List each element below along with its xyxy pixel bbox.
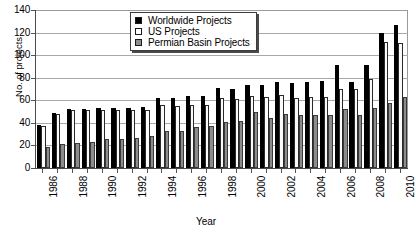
x-tick-label-1988: 1988 xyxy=(78,176,89,216)
y-tick-label-120: 120 xyxy=(0,28,30,38)
bar xyxy=(165,131,169,168)
bar-group xyxy=(111,10,124,168)
bar xyxy=(156,98,160,168)
legend-swatch-us-projects xyxy=(135,28,142,35)
bar-group xyxy=(394,10,407,168)
bar xyxy=(388,103,392,168)
bar-group xyxy=(52,10,65,168)
bar xyxy=(190,105,194,168)
bar-group xyxy=(290,10,303,168)
bar xyxy=(175,106,179,168)
x-tick-mark-1997 xyxy=(206,169,207,173)
bar xyxy=(111,108,115,168)
bar xyxy=(309,97,313,168)
x-tick-label-2000: 2000 xyxy=(256,176,267,216)
x-tick-mark-1987 xyxy=(57,169,58,173)
bar xyxy=(299,115,303,168)
x-tick-mark-1990 xyxy=(102,169,103,173)
y-tick-mark-140 xyxy=(31,10,35,11)
bar xyxy=(56,114,60,168)
bar xyxy=(354,89,358,168)
bar xyxy=(145,110,149,168)
x-tick-mark-2005 xyxy=(325,169,326,173)
x-tick-mark-1996 xyxy=(191,169,192,173)
bar xyxy=(116,110,120,168)
legend-label-permian-basin-projects: Permian Basin Projects xyxy=(148,37,250,48)
bar xyxy=(328,115,332,168)
bar xyxy=(294,98,298,168)
bar xyxy=(349,82,353,168)
bar xyxy=(394,25,398,168)
bar xyxy=(46,147,50,168)
x-tick-mark-2001 xyxy=(266,169,267,173)
bar xyxy=(384,42,388,168)
bar xyxy=(82,109,86,168)
bar xyxy=(320,81,324,168)
bar xyxy=(324,97,328,168)
bar xyxy=(71,110,75,168)
bar xyxy=(52,113,56,168)
x-tick-label-1998: 1998 xyxy=(227,176,238,216)
legend-swatch-worldwide-projects xyxy=(135,17,142,24)
bar xyxy=(343,109,347,168)
bar xyxy=(364,65,368,168)
bar xyxy=(230,89,234,168)
bar xyxy=(60,144,64,168)
bar xyxy=(41,126,45,168)
bar xyxy=(86,110,90,168)
x-tick-label-1986: 1986 xyxy=(48,176,59,216)
bar xyxy=(220,98,224,168)
bar xyxy=(105,139,109,168)
bar xyxy=(96,108,100,168)
bar-group xyxy=(364,10,377,168)
bar-group xyxy=(96,10,109,168)
bar xyxy=(269,118,273,168)
bar xyxy=(67,109,71,168)
y-tick-mark-0 xyxy=(31,168,35,169)
x-tick-label-1996: 1996 xyxy=(197,176,208,216)
y-tick-mark-120 xyxy=(31,33,35,34)
x-tick-mark-1988 xyxy=(72,169,73,173)
x-tick-mark-1986 xyxy=(42,169,43,173)
bar xyxy=(135,138,139,168)
x-tick-mark-2009 xyxy=(385,169,386,173)
bar xyxy=(264,97,268,168)
bar xyxy=(279,95,283,168)
x-tick-mark-1992 xyxy=(132,169,133,173)
y-tick-mark-20 xyxy=(31,145,35,146)
bar xyxy=(398,43,402,168)
x-axis-title: Year xyxy=(0,216,412,227)
x-tick-mark-2000 xyxy=(251,169,252,173)
bar xyxy=(194,127,198,168)
bar xyxy=(216,88,220,168)
bar xyxy=(171,98,175,168)
bar-group xyxy=(260,10,273,168)
bar xyxy=(369,79,373,168)
x-tick-label-2004: 2004 xyxy=(316,176,327,216)
bar xyxy=(275,82,279,168)
chart-legend: Worldwide Projects US Projects Permian B… xyxy=(130,12,257,51)
x-tick-mark-1994 xyxy=(161,169,162,173)
x-tick-label-2002: 2002 xyxy=(286,176,297,216)
bar xyxy=(141,107,145,168)
x-tick-mark-1991 xyxy=(117,169,118,173)
legend-label-worldwide-projects: Worldwide Projects xyxy=(148,15,232,26)
x-tick-mark-1999 xyxy=(236,169,237,173)
bar xyxy=(284,114,288,168)
bar-group xyxy=(305,10,318,168)
x-tick-mark-2008 xyxy=(370,169,371,173)
bar xyxy=(290,83,294,168)
y-tick-label-100: 100 xyxy=(0,50,30,60)
x-tick-label-2006: 2006 xyxy=(346,176,357,216)
x-tick-label-1994: 1994 xyxy=(167,176,178,216)
x-tick-label-2010: 2010 xyxy=(405,176,416,216)
x-tick-mark-1993 xyxy=(147,169,148,173)
x-tick-mark-2004 xyxy=(310,169,311,173)
bar-group xyxy=(67,10,80,168)
x-tick-mark-1998 xyxy=(221,169,222,173)
bar xyxy=(75,143,79,168)
y-tick-label-20: 20 xyxy=(0,140,30,150)
y-tick-label-40: 40 xyxy=(0,118,30,128)
bar xyxy=(224,122,228,168)
bar xyxy=(245,85,249,169)
